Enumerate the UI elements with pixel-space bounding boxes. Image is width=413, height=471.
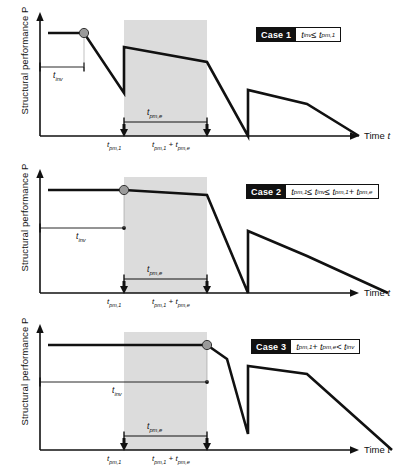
case-condition-3: tpm,1 + tpm,e < tinv bbox=[291, 339, 360, 354]
x-axis-label-2: Time t bbox=[364, 287, 390, 298]
y-axis-label-1: Structural performance P bbox=[19, 0, 30, 131]
y-axis-label-3: Structural performance P bbox=[19, 302, 30, 442]
case-name-3: Case 3 bbox=[251, 339, 291, 354]
chart-case-2 bbox=[0, 157, 413, 314]
case-condition-1: tinv ≤ tpm,1 bbox=[296, 27, 341, 42]
case-tag-2: Case 2 tpm,1 ≤ tinv ≤ tpm,1 + tpm,e bbox=[246, 184, 379, 199]
tick-left-3: tpm,1 bbox=[107, 454, 121, 465]
tick-right-1: tpm,1 + tpm,e bbox=[152, 140, 190, 151]
case-name-1: Case 1 bbox=[256, 27, 296, 42]
panel-case-1: Structural performance P Time t Case 1 t… bbox=[0, 0, 413, 157]
maintenance-band bbox=[124, 332, 207, 450]
case-tag-1: Case 1 tinv ≤ tpm,1 bbox=[256, 27, 341, 42]
t-pm-e-label-2: tpm,e bbox=[147, 264, 162, 276]
maintenance-band bbox=[124, 20, 207, 136]
performance-curve bbox=[48, 345, 392, 450]
panel-case-2: Structural performance P Time t Case 2 t… bbox=[0, 157, 413, 314]
t-inv-indicator bbox=[40, 33, 84, 72]
tick-right-3: tpm,1 + tpm,e bbox=[152, 454, 190, 465]
t-inv-indicator bbox=[40, 195, 126, 233]
case-tag-3: Case 3 tpm,1 + tpm,e < tinv bbox=[251, 339, 360, 354]
panel-case-3: Structural performance P Time t Case 3 t… bbox=[0, 314, 413, 471]
t-pm-e-label-1: tpm,e bbox=[147, 107, 162, 119]
tick-left-2: tpm,1 bbox=[107, 297, 121, 308]
performance-curve bbox=[48, 190, 388, 293]
t-inv-label-2: tinv bbox=[76, 231, 86, 243]
x-axis-label-3: Time t bbox=[364, 444, 390, 455]
y-axis-label-2: Structural performance P bbox=[19, 148, 30, 288]
x-axis-label-1: Time t bbox=[364, 130, 390, 141]
investment-marker bbox=[119, 185, 128, 194]
case-condition-2: tpm,1 ≤ tinv ≤ tpm,1 + tpm,e bbox=[286, 184, 378, 199]
figure-root: Structural performance P Time t Case 1 t… bbox=[0, 0, 413, 471]
tick-left-1: tpm,1 bbox=[107, 140, 121, 151]
investment-marker bbox=[202, 340, 211, 349]
t-inv-label-3: tinv bbox=[112, 385, 122, 397]
t-inv-label-1: tinv bbox=[53, 70, 63, 82]
t-pm-e-label-3: tpm,e bbox=[147, 421, 162, 433]
tick-right-2: tpm,1 + tpm,e bbox=[152, 297, 190, 308]
chart-case-3 bbox=[0, 314, 413, 471]
y-axis bbox=[36, 324, 43, 450]
case-name-2: Case 2 bbox=[246, 184, 286, 199]
y-axis bbox=[36, 12, 43, 136]
investment-marker bbox=[79, 28, 88, 37]
